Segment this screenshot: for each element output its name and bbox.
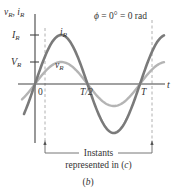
bracket-label-line2: represented in (c) (65, 160, 131, 171)
x-tick-label-T-half: T/2 (80, 87, 93, 97)
curve-label-iR: iR (60, 27, 68, 39)
instant-markers (45, 20, 152, 142)
y-axis-label: vR, iR (4, 7, 25, 19)
x-axis-label: t (167, 79, 170, 90)
x-tick-label-T: T (141, 87, 147, 97)
bracket-label-line1: Instants (84, 148, 114, 158)
y-tick-label-VR: VR (11, 56, 22, 69)
x-tick-label-0: 0 (38, 87, 43, 97)
panel-label: (b) (82, 177, 93, 188)
arrow-up-icon (43, 140, 46, 145)
arrow-up-icon (150, 140, 153, 145)
phase-label: ϕ = 0° = 0 rad (94, 11, 147, 21)
phasor-waveform-diagram: vR, iR IR VR iR vR ϕ = 0° = 0 rad t 0 T/… (0, 0, 176, 192)
y-tick-label-IR: IR (11, 29, 20, 42)
